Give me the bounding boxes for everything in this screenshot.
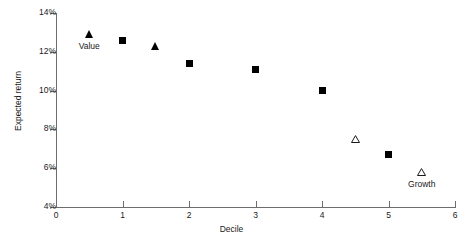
x-tick-mark — [389, 201, 390, 207]
annotation-value: Value — [59, 41, 119, 51]
y-tick-label: 6% — [22, 163, 56, 172]
x-axis-title: Decile — [0, 224, 463, 234]
y-tick-label: 8% — [22, 124, 56, 133]
data-point-growth — [417, 168, 426, 176]
x-tick-label: 6 — [440, 210, 463, 220]
scatter-chart: 14%12%10%8%6%4% 0123456 Expected return … — [0, 0, 463, 248]
x-tick-mark — [256, 201, 257, 207]
y-tick-label: 12% — [22, 47, 56, 56]
y-axis-line — [56, 13, 57, 208]
data-point-blend — [252, 66, 259, 73]
x-tick-label: 1 — [108, 210, 138, 220]
x-tick-mark — [455, 201, 456, 207]
data-point-blend — [319, 87, 326, 94]
x-axis-line — [56, 207, 456, 208]
data-point-blend — [119, 37, 126, 44]
y-tick-label: 10% — [22, 86, 56, 95]
y-tick-label: 14% — [22, 8, 56, 17]
y-axis-title: Expected return — [13, 41, 23, 161]
x-tick-label: 3 — [241, 210, 271, 220]
x-tick-mark — [322, 201, 323, 207]
x-tick-label: 2 — [174, 210, 204, 220]
annotation-growth: Growth — [392, 179, 452, 189]
x-tick-mark — [123, 201, 124, 207]
x-tick-label: 5 — [374, 210, 404, 220]
data-point-blend — [385, 151, 392, 158]
data-point-growth — [351, 135, 360, 143]
data-point-value — [85, 30, 93, 38]
x-tick-mark — [189, 201, 190, 207]
x-tick-label: 0 — [41, 210, 71, 220]
x-tick-label: 4 — [307, 210, 337, 220]
data-point-value — [151, 42, 159, 50]
data-point-blend — [186, 60, 193, 67]
